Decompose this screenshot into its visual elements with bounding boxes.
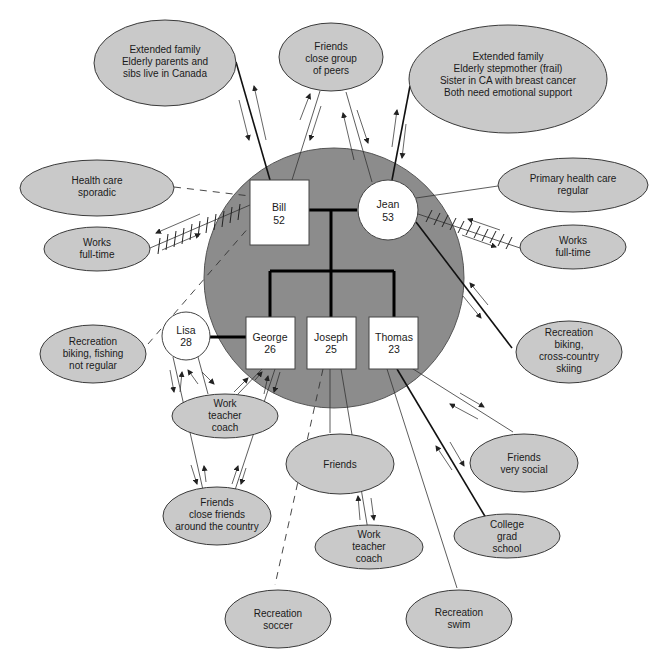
resource-label: Sister in CA with breast cancer <box>440 75 577 86</box>
resource-label: not regular <box>69 360 117 371</box>
person-name: Jean <box>377 198 400 210</box>
person-name: Thomas <box>375 331 413 343</box>
resource-bill-recreation[interactable]: Recreation biking, fishing not regular <box>40 325 146 383</box>
resource-label: coach <box>212 422 239 433</box>
person-name: George <box>252 331 287 343</box>
resource-label: Work <box>357 529 381 540</box>
resource-label: soccer <box>263 620 293 631</box>
resource-label: Friends <box>507 452 540 463</box>
resource-label: biking, <box>555 339 584 350</box>
resource-label: sibs live in Canada <box>123 68 207 79</box>
resource-label: Extended family <box>472 51 543 62</box>
resource-label: full-time <box>555 247 590 258</box>
resource-label: of peers <box>313 65 349 76</box>
resource-label: Friends <box>323 459 356 470</box>
resource-george-friends[interactable]: Friends close friends around the country <box>163 487 271 545</box>
person-lisa[interactable]: Lisa 28 <box>162 312 210 360</box>
person-name: Joseph <box>314 331 348 343</box>
resource-label: Recreation <box>545 327 593 338</box>
person-name: Bill <box>272 201 286 213</box>
resource-label: Recreation <box>435 607 483 618</box>
resource-thomas-college[interactable]: College grad school <box>454 514 560 558</box>
person-george[interactable]: George 26 <box>246 317 295 369</box>
person-jean[interactable]: Jean 53 <box>358 180 418 240</box>
resource-label: biking, fishing <box>63 348 124 359</box>
resource-label: Friends <box>200 497 233 508</box>
resource-label: Friends <box>314 41 347 52</box>
resource-thomas-recreation[interactable]: Recreation swim <box>406 590 512 648</box>
resource-label: close group <box>305 53 357 64</box>
resource-label: very social <box>500 464 547 475</box>
resource-label: Health care <box>71 175 123 186</box>
resource-bill-friends[interactable]: Friends close group of peers <box>279 23 383 91</box>
person-age: 23 <box>388 343 400 355</box>
resource-bill-work[interactable]: Works full-time <box>44 227 150 271</box>
resource-label: school <box>493 543 522 554</box>
person-age: 28 <box>180 336 192 348</box>
person-bill[interactable]: Bill 52 <box>250 180 309 245</box>
resource-label: skiing <box>556 363 582 374</box>
resource-label: Primary health care <box>530 173 617 184</box>
resource-label: Work <box>213 398 237 409</box>
resource-label: Both need emotional support <box>444 87 572 98</box>
resource-jean-health-care[interactable]: Primary health care regular <box>498 158 648 212</box>
connector-thomas-college <box>397 369 486 518</box>
resource-label: Elderly stepmother (frail) <box>454 63 563 74</box>
resource-label: coach <box>356 553 383 564</box>
resource-label: grad <box>497 531 517 542</box>
resource-label: Elderly parents and <box>122 56 208 67</box>
connector-bill-extended-family <box>236 62 270 180</box>
person-joseph[interactable]: Joseph 25 <box>307 317 356 369</box>
resource-joseph-friends[interactable]: Friends <box>286 434 394 494</box>
person-age: 53 <box>382 211 394 223</box>
resource-label: close friends <box>189 509 245 520</box>
resource-jean-extended-family[interactable]: Extended family Elderly stepmother (frai… <box>409 25 607 133</box>
resource-label: Recreation <box>254 608 302 619</box>
resource-label: Works <box>83 237 111 248</box>
resource-label: teacher <box>352 541 386 552</box>
connector-jean-extended-family <box>392 86 410 180</box>
resource-label: sporadic <box>78 187 116 198</box>
resource-bill-health-care[interactable]: Health care sporadic <box>20 160 174 216</box>
resource-label: regular <box>557 185 589 196</box>
person-name: Lisa <box>176 324 195 336</box>
resource-jean-recreation[interactable]: Recreation biking, cross-country skiing <box>516 321 622 383</box>
ecomap-diagram: Bill 52 Jean 53 George 26 Joseph 25 Thom… <box>0 0 671 657</box>
resource-label: Works <box>559 235 587 246</box>
connector-lisa-work <box>198 357 208 394</box>
resource-label: College <box>490 519 524 530</box>
resource-label: Recreation <box>69 336 117 347</box>
resource-label: full-time <box>79 249 114 260</box>
resource-label: around the country <box>175 521 258 532</box>
resource-bill-extended-family[interactable]: Extended family Elderly parents and sibs… <box>94 20 236 106</box>
resource-george-work[interactable]: Work teacher coach <box>172 394 278 438</box>
resource-thomas-friends[interactable]: Friends very social <box>470 434 578 492</box>
resource-joseph-recreation[interactable]: Recreation soccer <box>225 590 331 648</box>
person-age: 26 <box>264 343 276 355</box>
resource-label: teacher <box>208 410 242 421</box>
resource-label: swim <box>448 619 471 630</box>
resource-label: Extended family <box>129 44 200 55</box>
resource-label: cross-country <box>539 351 599 362</box>
person-thomas[interactable]: Thomas 23 <box>369 317 418 369</box>
resource-joseph-work[interactable]: Work teacher coach <box>315 525 423 569</box>
connector-thomas-friends <box>402 362 513 432</box>
resource-jean-work[interactable]: Works full-time <box>520 225 626 269</box>
person-age: 52 <box>273 214 285 226</box>
person-age: 25 <box>325 343 337 355</box>
